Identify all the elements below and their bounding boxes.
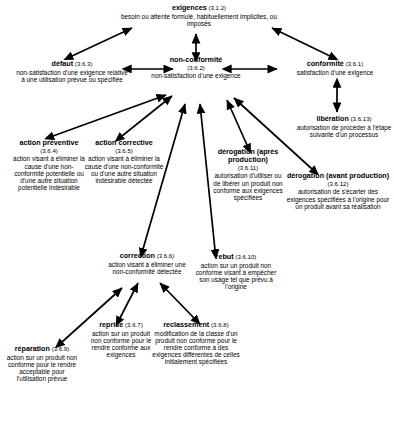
node-derogation-apres-production-ref: (3.6.11): [238, 164, 259, 171]
node-action-corrective-definition: action visant à éliminer la cause d'une …: [84, 155, 164, 184]
node-rebut-ref: (3.6.10): [235, 253, 256, 260]
node-action-preventive-ref: (3.6.4): [40, 147, 58, 154]
node-reprise-term: reprise: [99, 320, 123, 329]
node-rebut-definition: action sur un produit non conforme visan…: [194, 262, 278, 291]
node-reparation-ref: (3.6.9): [52, 345, 70, 352]
node-derogation-apres-production-term: dérogation (après production): [218, 147, 279, 164]
concept-diagram: exigences (3.1.2) besoin ou attente form…: [0, 0, 394, 424]
node-action-preventive-term: action préventive: [19, 138, 78, 147]
node-correction-head: correction (3.6.6): [104, 252, 190, 260]
node-exigences-definition: besoin ou attente formulé, habituellemen…: [118, 13, 280, 27]
node-reprise-definition: action sur un produit non conforme pour …: [88, 330, 154, 359]
node-exigences: exigences (3.1.2) besoin ou attente form…: [118, 4, 280, 27]
node-rebut-term: rebut: [216, 252, 234, 261]
node-derogation-avant-production: dérogation (avant production) (3.6.12) a…: [284, 172, 392, 210]
node-derogation-apres-production-definition: autorisation d'utiliser ou de libérer un…: [213, 172, 283, 201]
node-action-corrective-term: action corrective: [95, 138, 153, 147]
node-liberation-ref: (3.6.13): [351, 115, 372, 122]
node-derogation-apres-production: dérogation (après production) (3.6.11) a…: [213, 148, 283, 201]
node-correction-term: correction: [120, 251, 155, 260]
node-reparation: réparation (3.6.9) action sur un produit…: [4, 345, 80, 382]
edge-conformite-exigences: [272, 28, 330, 56]
node-reparation-term: réparation: [15, 344, 50, 353]
node-reclassement: reclassement (3.6.8) modification de la …: [152, 321, 240, 365]
edge-defaut-exigences: [72, 28, 132, 56]
node-reparation-head: réparation (3.6.9): [4, 345, 80, 353]
node-exigences-ref: (3.1.2): [208, 4, 226, 11]
node-exigences-head: exigences (3.1.2): [118, 4, 280, 12]
node-defaut-term: défaut: [52, 59, 74, 68]
node-derogation-avant-production-ref: (3.6.12): [327, 180, 348, 187]
edge-reclassement-correction: [160, 283, 194, 318]
node-reprise: reprise (3.6.7) action sur un produit no…: [88, 321, 154, 358]
node-exigences-term: exigences: [172, 3, 207, 12]
node-derogation-avant-production-term: dérogation (avant production): [287, 171, 389, 180]
node-conformite-head: conformité (3.6.1): [278, 60, 392, 68]
edge-actionpreventive-nonconformite: [53, 95, 166, 136]
node-non-conformite-term: non-conformité: [170, 55, 223, 64]
edge-reprise-correction: [120, 283, 138, 318]
node-conformite: conformité (3.6.1) satisfaction d'une ex…: [278, 60, 392, 76]
node-liberation: libération (3.6.13) autorisation de proc…: [296, 115, 392, 138]
node-action-preventive-definition: action visant à éliminer la cause d'une …: [12, 155, 86, 191]
node-action-preventive-head: action préventive (3.6.4): [12, 139, 86, 155]
node-reparation-definition: action sur un produit non conforme pour …: [4, 354, 80, 383]
node-defaut-definition: non-satisfaction d'une exigence relative…: [16, 69, 128, 83]
node-defaut: défaut (3.6.3) non-satisfaction d'une ex…: [16, 60, 128, 83]
node-defaut-head: défaut (3.6.3): [16, 60, 128, 68]
node-reprise-ref: (3.6.7): [125, 321, 143, 328]
node-reclassement-ref: (3.6.8): [211, 321, 229, 328]
node-correction-ref: (3.6.6): [157, 252, 175, 259]
node-liberation-head: libération (3.6.13): [296, 115, 392, 123]
node-conformite-term: conformité: [307, 59, 344, 68]
node-liberation-definition: autorisation de procéder à l'étape suiva…: [296, 124, 392, 138]
node-non-conformite-head: non-conformité: [140, 56, 252, 64]
node-reclassement-definition: modification de la classe d'un produit n…: [152, 330, 240, 366]
node-derogation-apres-production-head: dérogation (après production): [213, 148, 283, 164]
node-non-conformite: non-conformité (3.6.2) non-satisfaction …: [140, 56, 252, 80]
node-correction: correction (3.6.6) action visant à élimi…: [104, 252, 190, 275]
node-rebut: rebut (3.6.10) action sur un produit non…: [194, 253, 278, 290]
node-derogation-avant-production-definition: autorisation de s'écarter des exigences …: [284, 188, 392, 210]
node-non-conformite-ref: (3.6.2): [187, 64, 205, 71]
node-rebut-head: rebut (3.6.10): [194, 253, 278, 261]
node-conformite-ref: (3.6.1): [346, 60, 364, 67]
node-defaut-ref: (3.6.3): [75, 60, 93, 67]
node-reclassement-head: reclassement (3.6.8): [152, 321, 240, 329]
node-action-corrective: action corrective (3.6.5) action visant …: [84, 139, 164, 184]
node-conformite-definition: satisfaction d'une exigence: [278, 69, 392, 76]
node-liberation-term: libération: [316, 114, 348, 123]
node-reprise-head: reprise (3.6.7): [88, 321, 154, 329]
node-reclassement-term: reclassement: [163, 320, 209, 329]
node-derogation-avant-production-head: dérogation (avant production) (3.6.12): [284, 172, 392, 188]
node-action-preventive: action préventive (3.6.4) action visant …: [12, 139, 86, 191]
node-correction-definition: action visant à éliminer une non-conform…: [104, 261, 190, 275]
node-non-conformite-definition: non-satisfaction d'une exigence: [140, 72, 252, 79]
node-action-corrective-ref: (3.6.5): [115, 147, 133, 154]
node-action-corrective-head: action corrective: [84, 139, 164, 147]
